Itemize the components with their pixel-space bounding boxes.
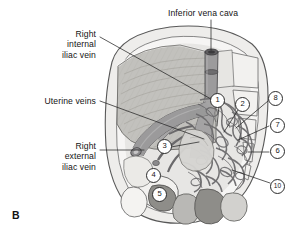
label-inferior-vena-cava: Inferior vena cava — [168, 8, 238, 18]
callout-8: 8 — [268, 91, 283, 106]
callout-1: 1 — [210, 93, 225, 108]
callout-3: 3 — [157, 139, 172, 154]
callout-4: 4 — [146, 168, 161, 183]
label-right-external-iliac-vein: Right external iliac vein — [22, 141, 96, 172]
callout-10: 10 — [270, 179, 285, 194]
label-uterine-veins: Uterine veins — [18, 96, 96, 106]
callout-6: 6 — [270, 144, 285, 159]
callout-7: 7 — [270, 118, 285, 133]
callout-2: 2 — [235, 97, 250, 112]
label-right-internal-iliac-vein: Right internal iliac vein — [22, 29, 96, 60]
panel-letter-b: B — [12, 209, 20, 221]
figure-panel-b: Right internal iliac vein Uterine veins … — [0, 0, 296, 243]
callout-5: 5 — [152, 187, 167, 202]
